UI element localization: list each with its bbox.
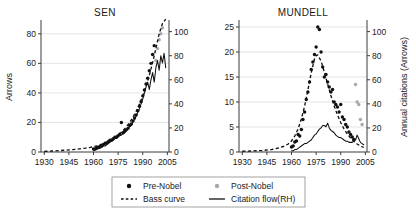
right-axis-tick-label: 0 bbox=[174, 147, 179, 157]
y-axis-label: Arrows bbox=[4, 73, 14, 102]
right-axis-tick-label: 60 bbox=[174, 75, 184, 85]
legend-label: Post-Nobel bbox=[231, 181, 273, 191]
legend-label: Pre-Nobel bbox=[143, 181, 181, 191]
right-axis-tick-label: 40 bbox=[174, 99, 184, 109]
series-line-bass-curve bbox=[44, 19, 165, 151]
left-axis-tick-label: 15 bbox=[225, 72, 235, 82]
data-point bbox=[318, 28, 321, 31]
right-axis-tick-label: 0 bbox=[372, 147, 377, 157]
right-axis-tick-label: 60 bbox=[372, 75, 382, 85]
x-axis-tick-label: 1975 bbox=[109, 157, 128, 167]
figure-root: SEN0204060800204060801001930194519601975… bbox=[0, 0, 416, 213]
data-point bbox=[339, 103, 342, 106]
data-point bbox=[354, 83, 357, 86]
left-axis-tick-label: 25 bbox=[225, 22, 235, 32]
data-point bbox=[360, 123, 363, 126]
data-point bbox=[291, 144, 294, 147]
legend-marker-dot bbox=[215, 184, 219, 188]
data-point bbox=[120, 121, 123, 124]
left-axis-tick-label: 10 bbox=[225, 97, 235, 107]
x-axis-tick-label: 1960 bbox=[282, 157, 301, 167]
x-axis-tick-label: 1930 bbox=[35, 157, 54, 167]
panel-title-sen: SEN bbox=[94, 7, 116, 18]
x-axis-tick-label: 1990 bbox=[133, 157, 152, 167]
x-axis-tick-label: 1930 bbox=[233, 157, 252, 167]
panel-mundell: MUNDELL051015202502040608010019301945196… bbox=[225, 7, 409, 167]
right-axis-tick-label: 80 bbox=[174, 51, 184, 61]
data-point bbox=[153, 44, 156, 47]
x-axis-tick-label: 1945 bbox=[59, 157, 78, 167]
left-axis-tick-label: 0 bbox=[229, 147, 234, 157]
data-point bbox=[319, 50, 322, 53]
x-axis-tick-label: 2005 bbox=[356, 157, 375, 167]
series-points-pre-nobel bbox=[290, 25, 356, 148]
left-axis-tick-label: 80 bbox=[27, 29, 37, 39]
data-point bbox=[314, 45, 317, 48]
right-axis-tick-label: 20 bbox=[372, 123, 382, 133]
x-axis-tick-label: 2005 bbox=[158, 157, 177, 167]
chart-legend: Pre-NobelPost-NobelBass curveCitation fl… bbox=[112, 177, 305, 207]
x-axis-tick-label: 1960 bbox=[84, 157, 103, 167]
data-point bbox=[342, 118, 345, 121]
data-point bbox=[357, 103, 360, 106]
right-axis-tick-label: 100 bbox=[174, 27, 188, 37]
panel-title-mundell: MUNDELL bbox=[278, 7, 329, 18]
data-point bbox=[159, 32, 162, 35]
left-axis-tick-label: 20 bbox=[225, 47, 235, 57]
series-points-post-nobel bbox=[354, 83, 364, 126]
right-axis-tick-label: 80 bbox=[372, 51, 382, 61]
x-axis-tick-label: 1975 bbox=[307, 157, 326, 167]
y2-axis-label: Annual citations (Arrows) bbox=[399, 37, 409, 137]
panel-sen: SEN0204060800204060801001930194519601975… bbox=[4, 7, 188, 167]
data-point bbox=[295, 139, 298, 142]
data-point bbox=[300, 128, 303, 131]
x-axis-tick-label: 1945 bbox=[257, 157, 276, 167]
right-axis-tick-label: 100 bbox=[372, 27, 386, 37]
data-point bbox=[331, 88, 334, 91]
series-line-bass-curve bbox=[242, 55, 363, 151]
x-axis-tick-label: 1990 bbox=[331, 157, 350, 167]
left-axis-tick-label: 0 bbox=[31, 147, 36, 157]
chart-canvas: SEN0204060800204060801001930194519601975… bbox=[0, 0, 416, 213]
data-point bbox=[346, 125, 349, 128]
legend-label: Bass curve bbox=[143, 194, 185, 204]
data-point bbox=[336, 105, 339, 108]
left-axis-tick-label: 60 bbox=[27, 58, 37, 68]
left-axis-tick-label: 40 bbox=[27, 88, 37, 98]
data-point bbox=[359, 118, 362, 121]
legend-marker-dot bbox=[127, 184, 131, 188]
right-axis-tick-label: 20 bbox=[174, 123, 184, 133]
series-points-post-nobel bbox=[154, 26, 164, 62]
left-axis-tick-label: 20 bbox=[27, 117, 37, 127]
data-point bbox=[337, 110, 340, 113]
legend-label: Citation flow(RH) bbox=[231, 194, 295, 204]
data-point bbox=[298, 134, 301, 137]
left-axis-tick-label: 5 bbox=[229, 122, 234, 132]
series-points-pre-nobel bbox=[92, 44, 156, 151]
series-line-citation-flow-rh- bbox=[94, 53, 166, 151]
right-axis-tick-label: 40 bbox=[372, 99, 382, 109]
